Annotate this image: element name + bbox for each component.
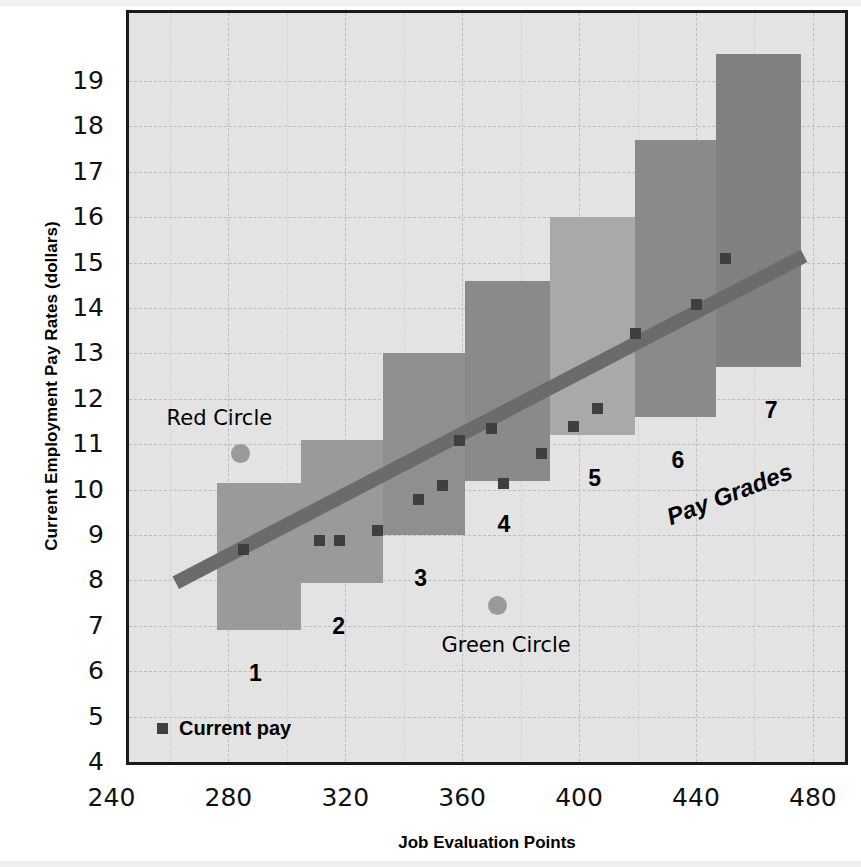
pay-grade-bar-1: [217, 483, 302, 631]
current-pay-point: [314, 535, 325, 546]
scan-border-bottom: [0, 861, 861, 867]
current-pay-point: [372, 525, 383, 536]
current-pay-point: [437, 480, 448, 491]
current-pay-point: [498, 478, 509, 489]
current-pay-point: [486, 423, 497, 434]
pay-grade-label-7: 7: [765, 397, 778, 424]
current-pay-point: [454, 435, 465, 446]
pay-grade-bar-2: [301, 440, 383, 583]
gridline-vertical: [813, 13, 814, 762]
y-tick-label-8: 8: [48, 567, 104, 592]
current-pay-point: [334, 535, 345, 546]
scan-border-top: [0, 0, 861, 6]
pay-grade-bar-7: [716, 54, 801, 367]
pay-grade-label-1: 1: [249, 660, 262, 687]
x-tick-label-400: 400: [534, 785, 624, 810]
current-pay-point: [238, 544, 249, 555]
green-circle-annotation: Green Circle: [441, 633, 570, 657]
plot-area: 1234567Red CircleGreen CirclePay Grades …: [126, 10, 848, 765]
legend-marker-icon: [157, 723, 168, 734]
x-tick-label-280: 280: [183, 785, 273, 810]
current-pay-point: [630, 328, 641, 339]
pay-grade-bar-3: [383, 353, 465, 535]
y-tick-label-10: 10: [48, 477, 104, 502]
x-tick-label-440: 440: [651, 785, 741, 810]
y-tick-label-16: 16: [48, 204, 104, 229]
y-tick-label-15: 15: [48, 250, 104, 275]
y-tick-label-17: 17: [48, 159, 104, 184]
pay-grade-label-4: 4: [497, 511, 510, 538]
pay-grade-label-2: 2: [332, 613, 345, 640]
red-circle-annotation: Red Circle: [167, 406, 273, 430]
current-pay-point: [413, 494, 424, 505]
chart-canvas: Current Employment Pay Rates (dollars) 4…: [0, 0, 861, 867]
y-tick-label-9: 9: [48, 522, 104, 547]
legend: Current pay: [157, 717, 291, 740]
pay-grade-bar-6: [635, 140, 717, 417]
pay-grade-label-5: 5: [588, 465, 601, 492]
pay-grade-label-6: 6: [671, 447, 684, 474]
y-tick-label-7: 7: [48, 613, 104, 638]
y-tick-label-12: 12: [48, 386, 104, 411]
current-pay-point: [536, 448, 547, 459]
x-tick-label-360: 360: [417, 785, 507, 810]
current-pay-point: [568, 421, 579, 432]
y-tick-label-4: 4: [48, 749, 104, 774]
current-pay-point: [691, 299, 702, 310]
y-tick-label-11: 11: [48, 431, 104, 456]
x-tick-label-480: 480: [768, 785, 858, 810]
y-tick-label-6: 6: [48, 658, 104, 683]
gridline-vertical: [345, 13, 346, 762]
x-axis-title: Job Evaluation Points: [126, 833, 848, 853]
y-tick-label-5: 5: [48, 704, 104, 729]
y-tick-label-18: 18: [48, 113, 104, 138]
gridline-vertical-minor: [287, 13, 288, 762]
y-tick-label-13: 13: [48, 340, 104, 365]
x-tick-label-320: 320: [300, 785, 390, 810]
pay-grade-label-3: 3: [414, 565, 427, 592]
current-pay-point: [592, 403, 603, 414]
gridline-horizontal: [129, 671, 845, 672]
gridline-vertical-minor: [170, 13, 171, 762]
gridline-horizontal: [129, 762, 845, 763]
y-tick-label-14: 14: [48, 295, 104, 320]
current-pay-point: [720, 253, 731, 264]
x-tick-label-240: 240: [66, 785, 156, 810]
y-tick-label-19: 19: [48, 68, 104, 93]
legend-label-current-pay: Current pay: [179, 717, 291, 740]
gridline-vertical: [228, 13, 229, 762]
